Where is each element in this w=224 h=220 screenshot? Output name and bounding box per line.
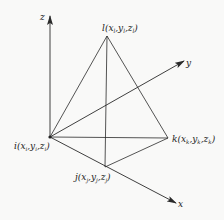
axes: [50, 16, 184, 203]
edge-i-k: [50, 137, 168, 138]
edge-l-k: [107, 36, 168, 138]
node-l-label: l(xl,yl,zl): [102, 23, 138, 34]
edge-j-k: [105, 138, 168, 167]
edge-l-j: [105, 36, 107, 167]
node-k-label: k(xk,yk,zk): [172, 134, 216, 145]
x-axis: [50, 137, 176, 203]
node-i-label: i(xi,yi,zi): [14, 141, 50, 152]
edge-i-l: [50, 36, 107, 137]
diagram-svg: z y x l(xl,yl,zl) i(xi,yi,zi) k(xk,yk,zk…: [0, 0, 224, 220]
node-j-label: j(xj,yj,zj): [73, 172, 111, 184]
node-i-dot: [48, 135, 51, 138]
tetrahedron-diagram: z y x l(xl,yl,zl) i(xi,yi,zi) k(xk,yk,zk…: [0, 0, 224, 220]
z-axis-label: z: [39, 12, 45, 22]
x-axis-label: x: [178, 199, 183, 209]
y-axis: [50, 61, 184, 137]
y-axis-label: y: [185, 58, 192, 68]
tetrahedron-edges: [50, 36, 168, 167]
